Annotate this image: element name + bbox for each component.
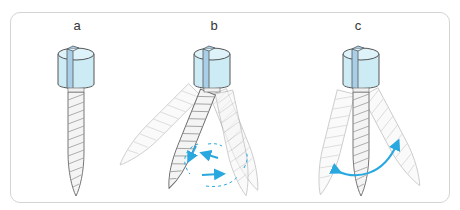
panel-b-screw	[114, 46, 266, 198]
panel-c-screw	[312, 46, 428, 197]
panel-a-screw	[58, 46, 94, 196]
diagram-artwork	[0, 0, 460, 210]
